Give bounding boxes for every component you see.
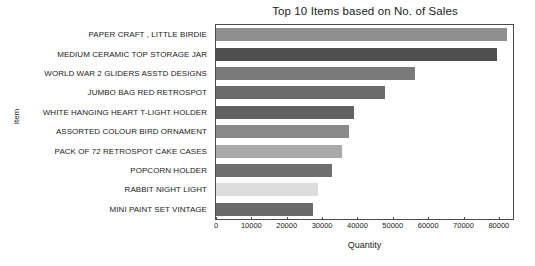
y-axis-category-labels: PAPER CRAFT , LITTLE BIRDIEMEDIUM CERAMI…	[20, 25, 211, 219]
x-axis-tick-mark	[322, 217, 323, 220]
bar-row	[216, 25, 513, 44]
y-axis-label: MEDIUM CERAMIC TOP STORAGE JAR	[57, 50, 211, 59]
bar-row	[216, 161, 513, 180]
y-axis-label: RABBIT NIGHT LIGHT	[125, 185, 211, 194]
bar-row	[216, 122, 513, 141]
x-axis-tick-mark	[393, 217, 394, 220]
bar	[216, 106, 354, 119]
bar-row	[216, 200, 513, 219]
x-axis-tick-label: 50000	[382, 221, 403, 230]
y-axis-label-row: WORLD WAR 2 GLIDERS ASSTD DESIGNS	[20, 64, 211, 83]
x-axis-tick-mark	[499, 217, 500, 220]
y-axis-label: PACK OF 72 RETROSPOT CAKE CASES	[55, 147, 211, 156]
x-axis-tick-mark	[464, 217, 465, 220]
x-axis-tick-label: 60000	[418, 221, 439, 230]
y-axis-label: PAPER CRAFT , LITTLE BIRDIE	[89, 30, 211, 39]
y-axis-label-row: JUMBO BAG RED RETROSPOT	[20, 83, 211, 102]
x-axis-tick-mark	[357, 217, 358, 220]
bar	[216, 145, 342, 158]
y-axis-label-row: RABBIT NIGHT LIGHT	[20, 180, 211, 199]
chart-title: Top 10 Items based on No. of Sales	[215, 5, 515, 17]
y-axis-label-row: ASSORTED COLOUR BIRD ORNAMENT	[20, 122, 211, 141]
x-axis-tick-label: 80000	[488, 221, 509, 230]
y-axis-label: WORLD WAR 2 GLIDERS ASSTD DESIGNS	[44, 69, 211, 78]
bar-row	[216, 141, 513, 160]
bar	[216, 164, 332, 177]
y-axis-label: JUMBO BAG RED RETROSPOT	[88, 88, 211, 97]
y-axis-label-row: PAPER CRAFT , LITTLE BIRDIE	[20, 25, 211, 44]
y-axis-label-row: MINI PAINT SET VINTAGE	[20, 200, 211, 219]
bar-row	[216, 103, 513, 122]
x-axis-tick-mark	[428, 217, 429, 220]
chart-screenshot: Top 10 Items based on No. of Sales PAPER…	[0, 0, 535, 266]
x-axis-tick-mark	[251, 217, 252, 220]
x-axis-tick-mark	[287, 217, 288, 220]
bar-row	[216, 180, 513, 199]
x-axis-tick-label: 0	[214, 221, 218, 230]
bar	[216, 125, 349, 138]
bar-row	[216, 64, 513, 83]
bar	[216, 67, 415, 80]
x-axis-tick-mark	[216, 217, 217, 220]
y-axis-label-row: WHITE HANGING HEART T-LIGHT HOLDER	[20, 103, 211, 122]
bar-row	[216, 44, 513, 63]
x-axis-tick-label: 20000	[276, 221, 297, 230]
y-axis-title: Item	[12, 97, 21, 137]
x-axis-tick-label: 70000	[453, 221, 474, 230]
y-axis-label: WHITE HANGING HEART T-LIGHT HOLDER	[43, 108, 211, 117]
y-axis-label: MINI PAINT SET VINTAGE	[110, 205, 211, 214]
bar	[216, 183, 318, 196]
bar	[216, 86, 385, 99]
bar	[216, 48, 497, 61]
x-axis-tick-label: 10000	[241, 221, 262, 230]
y-axis-label: POPCORN HOLDER	[130, 166, 211, 175]
y-axis-label-row: MEDIUM CERAMIC TOP STORAGE JAR	[20, 44, 211, 63]
y-axis-label: ASSORTED COLOUR BIRD ORNAMENT	[56, 127, 211, 136]
bar	[216, 203, 313, 216]
x-axis-ticks: 0100002000030000400005000060000700008000…	[216, 221, 496, 235]
y-axis-label-row: PACK OF 72 RETROSPOT CAKE CASES	[20, 141, 211, 160]
y-axis-label-row: POPCORN HOLDER	[20, 161, 211, 180]
x-axis-tick-label: 30000	[312, 221, 333, 230]
bars-container	[216, 25, 513, 219]
bar-row	[216, 83, 513, 102]
bar	[216, 28, 507, 41]
x-axis-tick-label: 40000	[347, 221, 368, 230]
x-axis-title: Quantity	[215, 240, 514, 250]
